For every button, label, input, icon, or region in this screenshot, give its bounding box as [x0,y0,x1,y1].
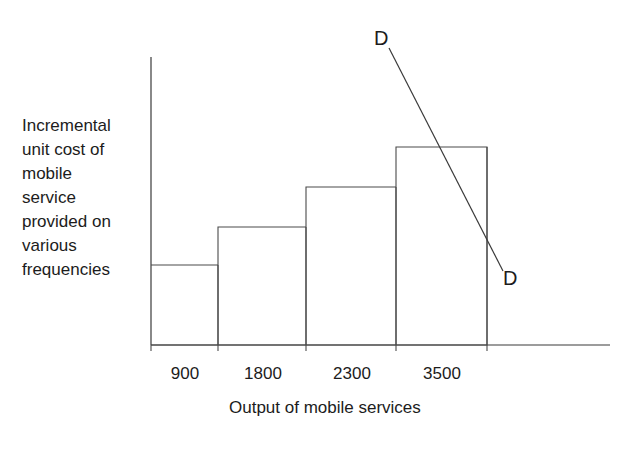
chart-figure: D D 900 1800 2300 3500 Incremental unit … [0,0,639,468]
x-tick-label-900: 900 [171,364,199,383]
demand-label-bottom: D [503,267,517,289]
demand-label-top: D [374,27,388,49]
y-axis-title-line-2: unit cost of [22,138,147,162]
y-axis-title-line-6: various [22,234,147,258]
step-bars-outline [151,147,487,345]
x-tick-label-3500: 3500 [423,364,461,383]
x-tick-label-2300: 2300 [333,364,371,383]
y-axis-title-line-4: service [22,186,147,210]
y-axis-title-line-3: mobile [22,162,147,186]
y-axis-title-line-1: Incremental [22,114,147,138]
x-axis-title: Output of mobile services [229,398,421,418]
x-tick-label-1800: 1800 [244,364,282,383]
y-axis-title-line-5: provided on [22,210,147,234]
demand-curve-line [389,48,503,271]
y-axis-title: Incremental unit cost of mobile service … [22,114,147,282]
y-axis-title-line-7: frequencies [22,258,147,282]
